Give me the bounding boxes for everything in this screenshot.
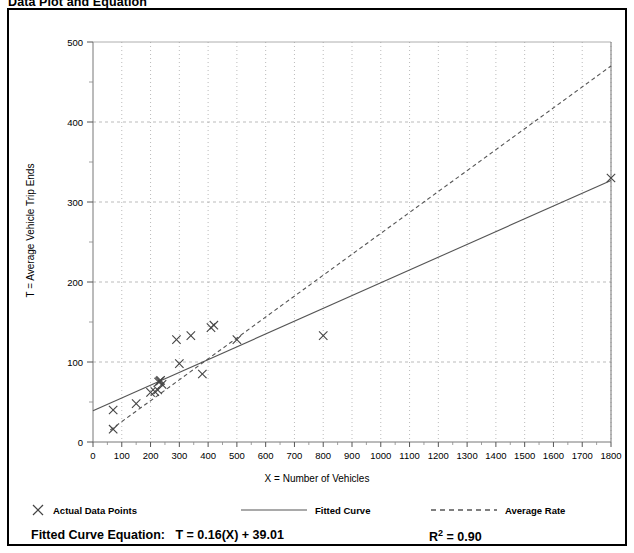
- legend-item-actual-data-points: Actual Data Points: [31, 497, 137, 523]
- svg-text:1000: 1000: [370, 450, 391, 461]
- equation-formula: T = 0.16(X) + 39.01: [175, 528, 283, 542]
- svg-text:0: 0: [78, 437, 83, 448]
- r-squared-number: = 0.90: [447, 530, 482, 544]
- svg-text:800: 800: [315, 450, 331, 461]
- fitted-curve-equation: Fitted Curve Equation: T = 0.16(X) + 39.…: [31, 528, 284, 542]
- x-marker-icon: [31, 503, 45, 517]
- y-axis-title: T = Average Vehicle Trip Ends: [25, 146, 36, 316]
- r-squared-exponent: 2: [438, 528, 443, 538]
- x-axis-title: X = Number of Vehicles: [9, 473, 625, 484]
- plot-area-wrapper: 0100200300400500010020030040050060070080…: [9, 10, 625, 544]
- legend-label-actual-data-points: Actual Data Points: [53, 505, 137, 516]
- figure-border-box: 0100200300400500010020030040050060070080…: [7, 8, 627, 546]
- svg-text:500: 500: [229, 450, 245, 461]
- svg-text:900: 900: [344, 450, 360, 461]
- svg-text:500: 500: [67, 37, 83, 48]
- legend-item-average-rate: Average Rate: [431, 497, 565, 523]
- legend-label-fitted-curve: Fitted Curve: [315, 505, 370, 516]
- scatter-plot: 0100200300400500010020030040050060070080…: [9, 10, 625, 480]
- svg-text:1600: 1600: [543, 450, 564, 461]
- legend-label-average-rate: Average Rate: [505, 505, 565, 516]
- svg-text:400: 400: [200, 450, 216, 461]
- figure-root: Data Plot and Equation 01002003004005000…: [0, 0, 634, 553]
- svg-text:1700: 1700: [572, 450, 593, 461]
- r-squared-value: R2 = 0.90: [429, 528, 482, 544]
- svg-text:100: 100: [114, 450, 130, 461]
- svg-text:600: 600: [258, 450, 274, 461]
- svg-text:100: 100: [67, 357, 83, 368]
- svg-text:0: 0: [90, 450, 95, 461]
- svg-text:1800: 1800: [600, 450, 621, 461]
- equation-label: Fitted Curve Equation:: [31, 528, 165, 542]
- svg-text:1300: 1300: [457, 450, 478, 461]
- svg-text:200: 200: [143, 450, 159, 461]
- solid-line-icon: [241, 505, 307, 515]
- svg-text:200: 200: [67, 277, 83, 288]
- svg-text:300: 300: [171, 450, 187, 461]
- r-squared-label: R: [429, 530, 438, 544]
- svg-text:1400: 1400: [485, 450, 506, 461]
- svg-text:1500: 1500: [514, 450, 535, 461]
- svg-text:300: 300: [67, 197, 83, 208]
- svg-text:400: 400: [67, 117, 83, 128]
- svg-text:1100: 1100: [399, 450, 419, 461]
- legend-item-fitted-curve: Fitted Curve: [241, 497, 370, 523]
- svg-text:1200: 1200: [428, 450, 449, 461]
- dashed-line-icon: [431, 505, 497, 515]
- chart-legend: Actual Data Points Fitted Curve Average …: [9, 497, 625, 523]
- equation-row: Fitted Curve Equation: T = 0.16(X) + 39.…: [9, 526, 625, 552]
- svg-text:700: 700: [287, 450, 303, 461]
